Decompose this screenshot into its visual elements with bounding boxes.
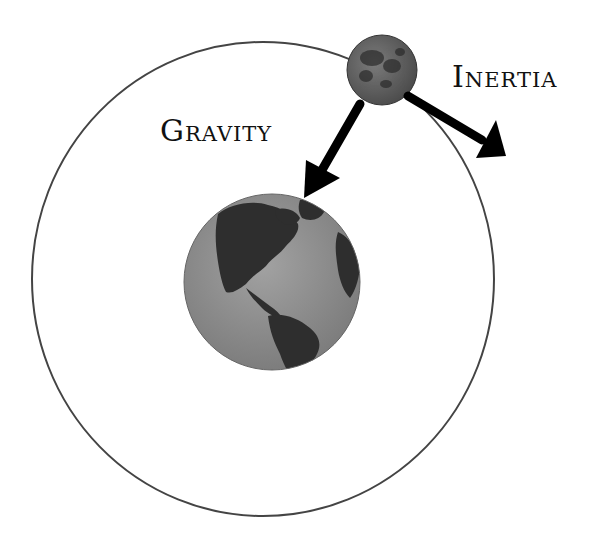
gravity-label: Gravity bbox=[160, 113, 272, 148]
inertia-label: Inertia bbox=[452, 59, 557, 94]
gravity-arrow bbox=[304, 104, 360, 198]
earth-globe-icon bbox=[184, 194, 360, 384]
